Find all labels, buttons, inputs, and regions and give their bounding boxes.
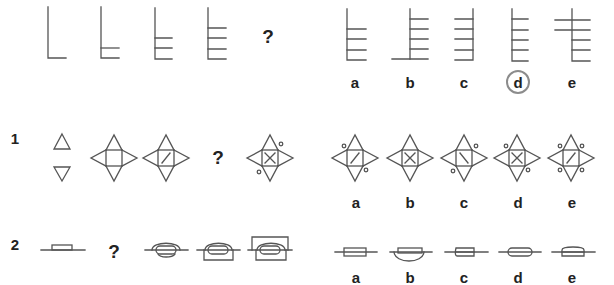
q2-option-e-label[interactable]: e: [568, 270, 576, 285]
example-sequence-figure-4: [208, 8, 226, 59]
example-option-b-label[interactable]: b: [405, 75, 414, 90]
q1-option-c-figure[interactable]: [441, 135, 487, 181]
example-option-b-figure[interactable]: [392, 9, 428, 59]
example-option-c-figure[interactable]: [455, 9, 473, 60]
q1-option-e-label[interactable]: e: [568, 195, 576, 210]
example-option-d-label-text: d: [513, 75, 522, 90]
q2-option-d-figure[interactable]: [499, 248, 541, 256]
q2-number: 2: [11, 237, 19, 252]
q1-sequence-figure-2: [91, 135, 137, 181]
example-sequence-figure-3: [155, 8, 172, 59]
q1-option-d-label[interactable]: d: [513, 195, 522, 210]
q2-sequence-figure-5: [248, 237, 292, 260]
example-sequence-figure-1: [48, 7, 66, 58]
q2-option-b-figure[interactable]: [390, 248, 432, 261]
example-option-a-label[interactable]: a: [351, 75, 359, 90]
q2-option-c-figure[interactable]: [445, 248, 488, 256]
q1-missing-figure-placeholder: ?: [212, 148, 224, 167]
q1-option-a-label[interactable]: a: [352, 195, 360, 210]
puzzle-canvas: [0, 0, 614, 285]
q1-option-e-figure[interactable]: [548, 135, 594, 181]
example-sequence-figure-2: [101, 7, 119, 58]
q1-option-a-figure[interactable]: [332, 135, 378, 181]
q1-sequence-figure-1: [54, 134, 70, 181]
q1-option-b-figure[interactable]: [387, 135, 433, 181]
example-option-c-label[interactable]: c: [460, 75, 468, 90]
example-option-e-figure[interactable]: [555, 9, 590, 61]
q2-missing-figure-placeholder: ?: [108, 242, 120, 261]
q1-option-c-label[interactable]: c: [460, 195, 468, 210]
q2-option-b-label[interactable]: b: [405, 270, 414, 285]
q1-sequence-figure-3: [143, 135, 189, 181]
q1-option-b-label[interactable]: b: [405, 195, 414, 210]
q2-option-a-label[interactable]: a: [352, 270, 360, 285]
q1-option-d-figure[interactable]: [494, 135, 540, 181]
q1-sequence-figure-5: [247, 135, 293, 181]
q2-sequence-figure-4: [197, 243, 240, 260]
example-missing-figure-placeholder: ?: [262, 27, 274, 46]
example-option-a-figure[interactable]: [347, 9, 366, 60]
example-option-d-figure[interactable]: [512, 9, 528, 61]
q2-option-a-figure[interactable]: [335, 248, 377, 256]
q2-option-c-label[interactable]: c: [460, 270, 468, 285]
example-option-e-label[interactable]: e: [568, 75, 576, 90]
example-option-d-label-selected[interactable]: d: [506, 70, 530, 94]
q2-sequence-figure-3: [145, 243, 188, 257]
q2-sequence-figure-1: [41, 245, 85, 250]
q1-number: 1: [11, 131, 19, 146]
q2-option-e-figure[interactable]: [552, 247, 595, 256]
q2-option-d-label[interactable]: d: [513, 270, 522, 285]
